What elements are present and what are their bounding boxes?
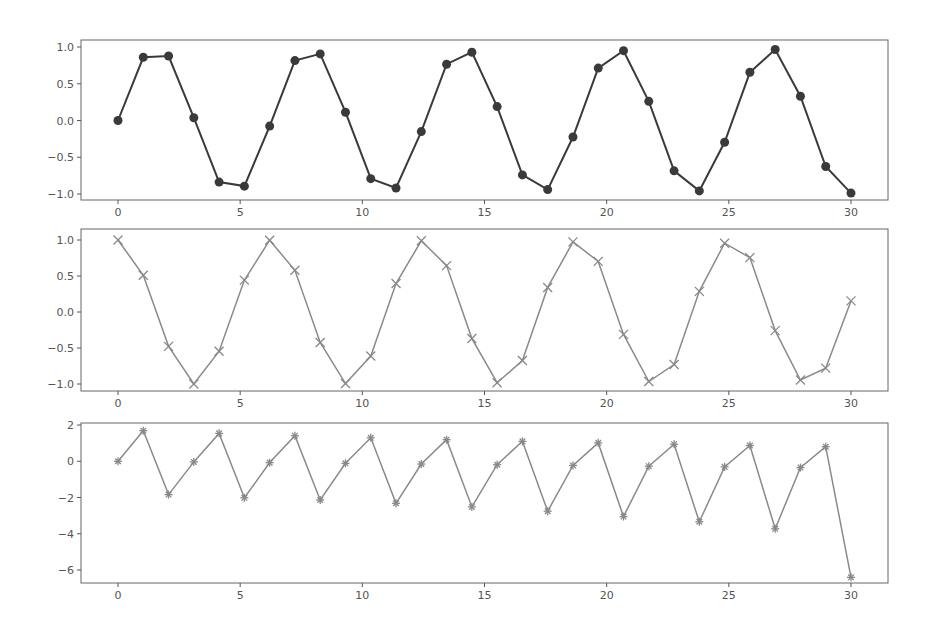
x-tick-label: 10 <box>355 206 369 219</box>
circle-marker <box>493 102 502 111</box>
star-marker <box>518 437 526 445</box>
star-marker <box>670 440 678 448</box>
circle-marker <box>518 170 527 179</box>
x-tick-label: 5 <box>237 589 244 602</box>
star-marker <box>620 513 628 521</box>
y-tick-label: 1.0 <box>57 41 75 54</box>
x-tick-label: 30 <box>844 589 858 602</box>
star-marker <box>822 443 830 451</box>
y-tick-label: −1.0 <box>47 378 74 391</box>
x-tick-label: 30 <box>844 206 858 219</box>
subplot-sin: 0510152025301.00.50.0−0.5−1.0 <box>47 40 888 219</box>
circle-marker <box>392 183 401 192</box>
y-tick-label: −6 <box>58 564 74 577</box>
star-marker <box>443 436 451 444</box>
x-tick-label: 10 <box>355 397 369 410</box>
x-tick-label: 25 <box>722 206 736 219</box>
circle-marker <box>417 127 426 136</box>
star-marker <box>367 434 375 442</box>
subplot-tan: 05101520253020−2−4−6 <box>58 419 888 602</box>
y-tick-label: 2 <box>67 419 74 432</box>
circle-marker <box>215 178 224 187</box>
x-tick-label: 20 <box>600 206 614 219</box>
star-marker <box>165 491 173 499</box>
y-tick-label: −1.0 <box>47 188 74 201</box>
star-marker <box>695 518 703 526</box>
circle-marker <box>366 174 375 183</box>
star-marker <box>316 496 324 504</box>
circle-marker <box>695 186 704 195</box>
x-tick-label: 0 <box>115 397 122 410</box>
star-marker <box>847 573 855 581</box>
circle-marker <box>290 56 299 65</box>
circle-marker <box>189 113 198 122</box>
circle-marker <box>745 68 754 77</box>
star-marker <box>645 462 653 470</box>
circle-marker <box>771 45 780 54</box>
circle-marker <box>796 92 805 101</box>
x-tick-label: 15 <box>478 206 492 219</box>
y-tick-label: −2 <box>58 492 74 505</box>
star-marker <box>240 494 248 502</box>
star-marker <box>417 460 425 468</box>
y-tick-label: −0.5 <box>47 342 74 355</box>
x-tick-label: 25 <box>722 589 736 602</box>
y-tick-label: 0.0 <box>57 115 75 128</box>
circle-marker <box>316 49 325 58</box>
x-tick-label: 0 <box>115 206 122 219</box>
x-tick-label: 20 <box>600 397 614 410</box>
x-tick-label: 5 <box>237 397 244 410</box>
circle-marker <box>720 138 729 147</box>
circle-marker <box>543 185 552 194</box>
x-tick-label: 30 <box>844 397 858 410</box>
star-marker <box>796 464 804 472</box>
figure: 0510152025301.00.50.0−0.5−1.0 0510152025… <box>0 0 932 638</box>
star-marker <box>468 503 476 511</box>
circle-marker <box>594 64 603 73</box>
x-tick-label: 15 <box>478 397 492 410</box>
star-marker <box>569 461 577 469</box>
circle-marker <box>265 122 274 131</box>
circle-marker <box>670 166 679 175</box>
star-marker <box>594 439 602 447</box>
circle-marker <box>467 48 476 57</box>
star-marker <box>746 441 754 449</box>
circle-marker <box>341 108 350 117</box>
y-tick-label: −0.5 <box>47 151 74 164</box>
x-tick-label: 5 <box>237 206 244 219</box>
y-tick-label: 0.5 <box>57 78 75 91</box>
star-marker <box>266 459 274 467</box>
circle-marker <box>821 162 830 171</box>
x-tick-label: 25 <box>722 397 736 410</box>
y-tick-label: 0.5 <box>57 270 75 283</box>
star-marker <box>114 457 122 465</box>
star-marker <box>544 507 552 515</box>
circle-marker <box>114 116 123 125</box>
x-tick-label: 20 <box>600 589 614 602</box>
x-tick-label: 15 <box>478 589 492 602</box>
y-tick-label: 0 <box>67 455 74 468</box>
y-tick-label: −4 <box>58 528 74 541</box>
star-marker <box>771 525 779 533</box>
circle-marker <box>847 189 856 198</box>
x-tick-label: 10 <box>355 589 369 602</box>
circle-marker <box>644 97 653 106</box>
star-marker <box>721 463 729 471</box>
star-marker <box>493 461 501 469</box>
star-marker <box>392 499 400 507</box>
x-tick-label: 0 <box>115 589 122 602</box>
circle-marker <box>619 46 628 55</box>
axes-frame <box>81 40 888 200</box>
circle-marker <box>240 182 249 191</box>
y-tick-label: 1.0 <box>57 234 75 247</box>
axes-frame <box>81 229 888 391</box>
star-marker <box>291 432 299 440</box>
y-tick-label: 0.0 <box>57 306 75 319</box>
circle-marker <box>442 60 451 69</box>
star-marker <box>139 427 147 435</box>
star-marker <box>341 459 349 467</box>
circle-marker <box>568 133 577 142</box>
circle-marker <box>164 51 173 60</box>
circle-marker <box>139 53 148 62</box>
subplot-cos: 0510152025301.00.50.0−0.5−1.0 <box>47 229 888 410</box>
